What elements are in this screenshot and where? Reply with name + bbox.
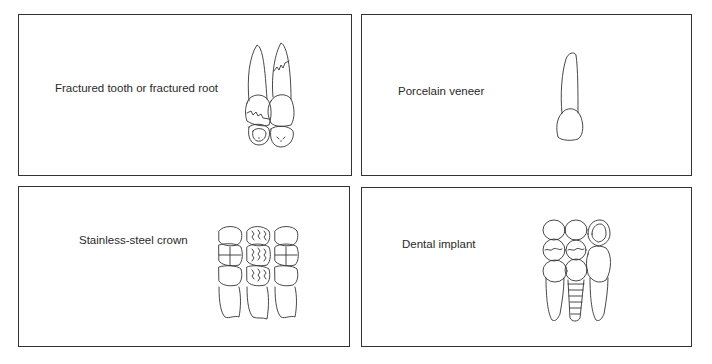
panel-porcelain-veneer: Porcelain veneer — [361, 14, 692, 176]
tooth-icon — [215, 225, 305, 325]
panel-label: Dental implant — [402, 238, 476, 250]
tooth-icon — [540, 218, 620, 326]
panel-label: Fractured tooth or fractured root — [55, 82, 218, 94]
panel-label: Stainless-steel crown — [79, 234, 188, 246]
panel-stainless-steel-crown: Stainless-steel crown — [18, 186, 350, 347]
panel-dental-implant: Dental implant — [361, 187, 692, 347]
dental-implant-illustration — [540, 218, 620, 326]
tooth-icon — [550, 49, 590, 145]
tooth-icon — [239, 39, 309, 149]
veneer-tooth-illustration — [550, 49, 590, 145]
stainless-steel-crown-illustration — [215, 225, 305, 325]
fractured-teeth-illustration — [239, 39, 309, 149]
panel-fractured-tooth: Fractured tooth or fractured root — [18, 14, 352, 176]
panel-label: Porcelain veneer — [398, 85, 484, 97]
